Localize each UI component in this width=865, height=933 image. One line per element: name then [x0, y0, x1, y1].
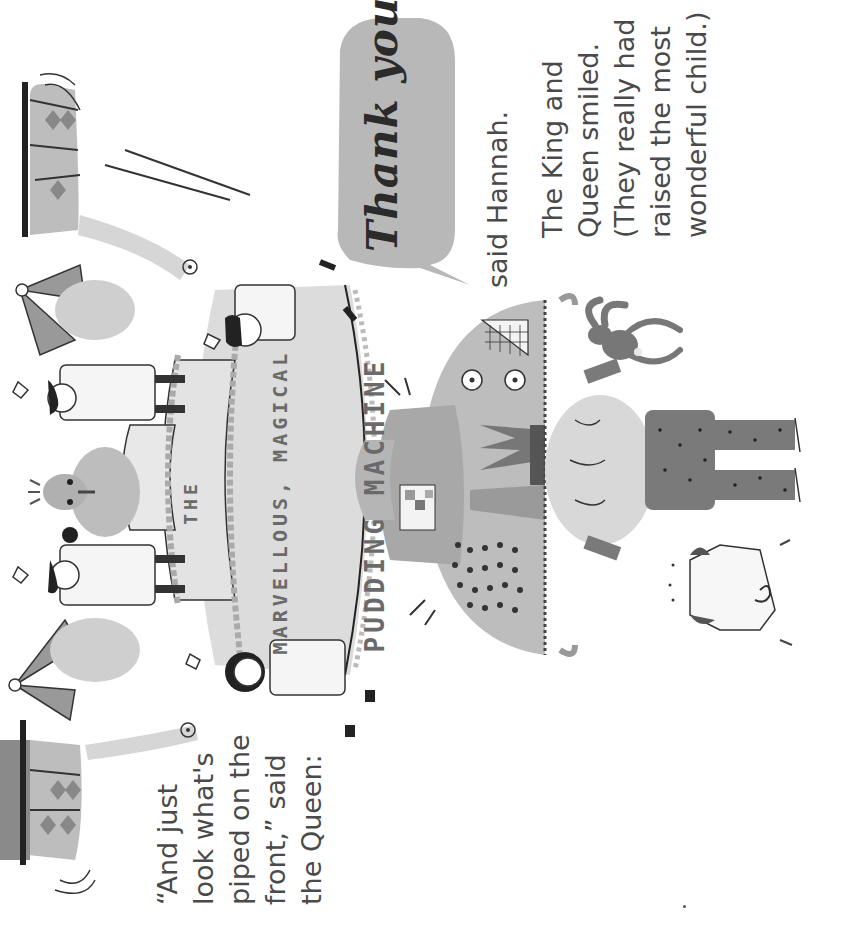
thank-you-speech: Thank you!	[358, 0, 407, 252]
child-hugging-robot	[545, 359, 800, 561]
king-queen-text: The King and Queen smiled. (They really …	[535, 12, 715, 238]
cake-lettering-the: THE	[180, 423, 201, 583]
storybook-page: “And just look what's piped on the front…	[0, 0, 865, 933]
cake-lettering-marvellous: MARVELLOUS, MAGICAL	[268, 322, 292, 682]
said-hannah-text: said Hannah.	[480, 111, 516, 288]
left-arm-sleeve-top	[22, 74, 250, 280]
illustration	[0, 0, 865, 933]
toy-rabbit	[588, 300, 680, 361]
queen-quote-text: “And just look what's piped on the front…	[150, 734, 330, 905]
cake-lettering-pudding: PUDDING MACHINE	[360, 295, 390, 715]
dog	[669, 540, 793, 645]
bird-on-cake	[28, 447, 140, 537]
stray-dot	[683, 905, 686, 908]
